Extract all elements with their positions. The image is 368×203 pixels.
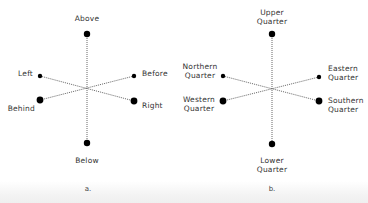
label-left-text: Left: [18, 69, 33, 78]
label-behind-text: Behind: [8, 104, 35, 113]
caption-b: b.: [269, 185, 276, 193]
node-left: [38, 74, 42, 78]
node-right: [131, 98, 138, 105]
label-western-quarter-line1: Western: [183, 95, 215, 104]
node-southern-quarter: [316, 98, 323, 105]
node-behind: [37, 97, 44, 104]
label-eastern-quarter-line2: Quarter: [328, 73, 358, 82]
label-northern-quarter: Northern Quarter: [183, 62, 218, 80]
label-before-text: Before: [142, 69, 168, 78]
label-western-quarter-line2: Quarter: [183, 104, 215, 113]
node-upper-quarter: [269, 31, 275, 37]
label-lower-quarter-line1: Lower: [257, 156, 287, 165]
label-below-text: Below: [75, 156, 99, 165]
label-lower-quarter-line2: Quarter: [257, 165, 287, 174]
label-upper-quarter-line2: Quarter: [257, 17, 287, 26]
label-southern-quarter: Southern Quarter: [328, 96, 364, 114]
label-northern-quarter-line1: Northern: [183, 62, 218, 71]
diagram-a-graph: [37, 31, 138, 146]
node-eastern-quarter: [317, 75, 321, 79]
label-eastern-quarter-line1: Eastern: [328, 64, 358, 73]
label-western-quarter: Western Quarter: [183, 95, 215, 113]
label-before: Before: [142, 69, 168, 78]
label-eastern-quarter: Eastern Quarter: [328, 64, 358, 82]
diagram-b-graph: [220, 31, 323, 147]
node-lower-quarter: [269, 141, 275, 147]
node-northern-quarter: [221, 74, 225, 78]
label-below: Below: [75, 156, 99, 165]
label-above: Above: [75, 14, 100, 23]
node-western-quarter: [220, 98, 227, 105]
label-right-text: Right: [142, 101, 163, 110]
label-upper-quarter-line1: Upper: [257, 8, 287, 17]
label-behind: Behind: [8, 104, 35, 113]
caption-a: a.: [85, 185, 92, 193]
label-left: Left: [18, 69, 33, 78]
label-lower-quarter: Lower Quarter: [257, 156, 287, 174]
node-above: [84, 31, 90, 37]
label-upper-quarter: Upper Quarter: [257, 8, 287, 26]
node-before: [132, 74, 136, 78]
label-northern-quarter-line2: Quarter: [183, 71, 218, 80]
label-southern-quarter-line2: Quarter: [328, 105, 364, 114]
label-above-text: Above: [75, 14, 100, 23]
label-right: Right: [142, 101, 163, 110]
node-below: [84, 140, 90, 146]
label-southern-quarter-line1: Southern: [328, 96, 364, 105]
